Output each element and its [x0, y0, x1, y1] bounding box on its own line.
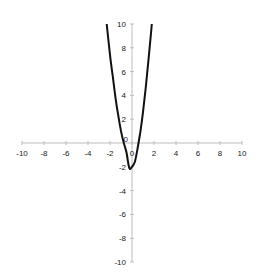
x-tick-label: -4	[84, 149, 92, 158]
y-tick-label: -4	[119, 187, 127, 196]
x-tick-label: 0	[130, 149, 135, 158]
x-tick-label: -8	[40, 149, 48, 158]
x-tick-label: 6	[196, 149, 201, 158]
chart: -10-8-6-4-20246810-10-8-6-4-20246810	[0, 0, 260, 277]
x-tick-label: -2	[106, 149, 114, 158]
y-tick-label: 8	[122, 44, 127, 53]
y-tick-label: -10	[114, 258, 126, 267]
y-tick-label: -2	[119, 163, 127, 172]
y-tick-label: 2	[122, 115, 127, 124]
x-tick-label: 10	[238, 149, 247, 158]
y-tick-label: -8	[119, 234, 127, 243]
y-tick-label: -6	[119, 210, 127, 219]
y-tick-label: 6	[122, 68, 127, 77]
parabola-curve	[107, 24, 152, 169]
x-tick-label: 4	[174, 149, 179, 158]
x-tick-label: -10	[16, 149, 28, 158]
x-tick-label: 2	[152, 149, 157, 158]
y-tick-label: 10	[117, 20, 126, 29]
axes	[22, 24, 242, 262]
x-tick-label: -6	[62, 149, 70, 158]
y-tick-label: 4	[122, 91, 127, 100]
x-tick-label: 8	[218, 149, 223, 158]
